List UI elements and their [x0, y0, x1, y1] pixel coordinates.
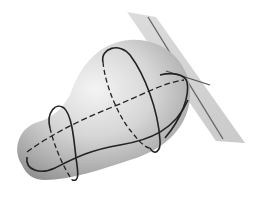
pear-surface — [17, 40, 190, 180]
surface-diagram — [0, 0, 256, 197]
